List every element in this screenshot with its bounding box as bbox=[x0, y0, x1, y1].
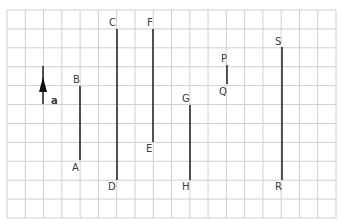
point-label: H bbox=[182, 181, 190, 192]
point-label: F bbox=[147, 17, 153, 28]
point-label: P bbox=[221, 53, 227, 64]
line-segments-diagram: BACDFEGHPQSR a bbox=[0, 0, 342, 224]
vector-label: a bbox=[51, 95, 58, 106]
point-label: R bbox=[275, 181, 282, 192]
point-label: E bbox=[146, 143, 152, 154]
point-label: B bbox=[73, 74, 80, 85]
point-label: Q bbox=[219, 86, 227, 97]
point-label: S bbox=[275, 36, 281, 47]
point-label: C bbox=[109, 17, 116, 28]
point-label: D bbox=[108, 181, 116, 192]
point-label: G bbox=[182, 93, 190, 104]
point-label: A bbox=[72, 162, 79, 173]
